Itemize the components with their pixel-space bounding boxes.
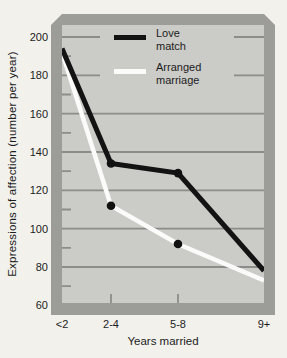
x-tick-label-5-8: 5-8 <box>170 318 186 330</box>
y-tick-label-140: 140 <box>14 146 48 158</box>
data-point-love-match-5-8 <box>174 169 183 178</box>
x-tick-label-9+: 9+ <box>258 318 271 330</box>
plot-area: Love match Arranged marriage <box>62 25 264 303</box>
x-tick-label-2-4: 2-4 <box>103 318 119 330</box>
affection-line-chart-figure: Expressions of affection (number per yea… <box>0 0 287 358</box>
y-tick-label-200: 200 <box>14 31 48 43</box>
data-point-love-match-2-4 <box>107 159 116 168</box>
arranged-marriage-line-swatch <box>114 69 146 74</box>
x-axis-title: Years married <box>62 335 264 347</box>
y-tick-label-180: 180 <box>14 69 48 81</box>
data-point-arranged-marriage-5-8 <box>174 240 183 249</box>
y-tick-label-60: 60 <box>14 299 48 311</box>
legend-label-love-match: Love match <box>156 27 186 53</box>
legend-label-line2: match <box>156 40 186 52</box>
legend-label-line2: marriage <box>156 74 199 86</box>
legend-label-arranged-marriage: Arranged marriage <box>156 61 201 87</box>
y-tick-label-80: 80 <box>14 261 48 273</box>
y-tick-label-120: 120 <box>14 184 48 196</box>
y-tick-label-100: 100 <box>14 223 48 235</box>
legend-label-line1: Love <box>156 27 180 39</box>
legend: Love match Arranged marriage <box>100 25 234 95</box>
x-tick-label-<2: <2 <box>56 318 69 330</box>
y-tick-label-160: 160 <box>14 108 48 120</box>
legend-label-line1: Arranged <box>156 61 201 73</box>
chart-frame: Love match Arranged marriage <box>51 14 275 315</box>
data-point-arranged-marriage-2-4 <box>107 201 116 210</box>
legend-entry-love-match: Love match <box>100 27 234 53</box>
legend-entry-arranged-marriage: Arranged marriage <box>100 61 234 87</box>
love-match-line-swatch <box>114 35 146 40</box>
